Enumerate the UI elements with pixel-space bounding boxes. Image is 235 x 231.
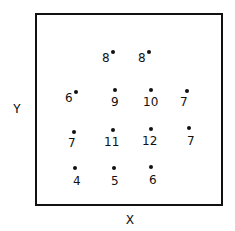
data-point-dot [147,50,151,54]
data-point-dot [149,127,153,131]
data-point-dot [187,126,191,130]
data-point-label: 5 [111,175,119,187]
y-axis-label: Y [13,102,21,115]
data-point-label: 4 [73,175,81,187]
data-point-label: 7 [187,135,195,147]
data-point-dot [112,166,116,170]
data-point-label: 7 [180,96,188,108]
data-point-label: 6 [65,92,73,104]
x-axis-label: X [126,213,134,226]
data-point-dot [185,89,189,93]
data-point-label: 11 [104,136,119,148]
data-point-dot [73,166,77,170]
data-point-dot [149,165,153,169]
data-point-dot [72,130,76,134]
data-point-label: 12 [142,135,157,147]
data-point-label: 7 [68,137,76,149]
data-point-label: 6 [149,174,157,186]
data-point-dot [149,88,153,92]
data-point-dot [111,128,115,132]
data-point-label: 8 [138,52,146,64]
data-point-label: 8 [102,52,110,64]
data-point-dot [113,88,117,92]
data-point-dot [111,50,115,54]
data-point-label: 10 [143,96,158,108]
data-point-dot [74,90,78,94]
plot-frame [35,13,223,206]
data-point-label: 9 [111,96,119,108]
